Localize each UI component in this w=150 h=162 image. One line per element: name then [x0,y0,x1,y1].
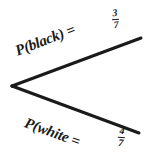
probability-branch-figure: P(black) = 3 7 P(white = 4 7 [0,0,150,162]
branch-vertex-node [10,84,13,87]
lower-fraction-denominator: 7 [117,138,125,149]
upper-fraction-numerator: 3 [111,8,119,19]
lower-fraction-numerator: 4 [118,126,126,137]
upper-fraction-denominator: 7 [112,20,120,31]
